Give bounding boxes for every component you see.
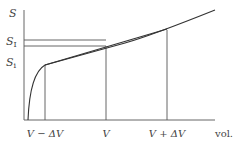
entropy-curve (28, 10, 215, 120)
s-lower-label: Si (6, 56, 17, 70)
tick-label-v-minus-dv: V − ΔV (27, 128, 65, 139)
x-axis-label: vol. (214, 128, 233, 139)
tick-label-v-plus-dv: V + ΔV (149, 128, 187, 139)
s-upper-label: SI (6, 35, 17, 49)
diagram: S SI Si V − ΔV V V + ΔV vol. (0, 0, 245, 147)
tick-label-v: V (102, 128, 111, 139)
y-axis-label: S (9, 7, 17, 20)
